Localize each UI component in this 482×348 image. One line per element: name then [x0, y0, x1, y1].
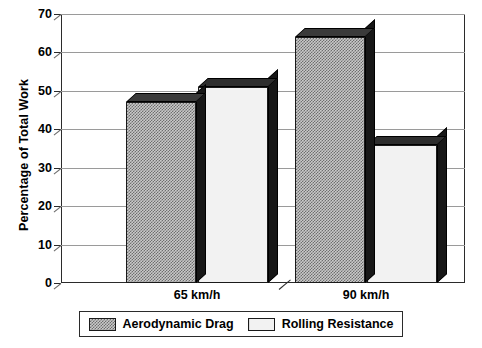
bar-front-face [295, 37, 365, 283]
plot-area: 010203040506070 [61, 14, 465, 283]
bar-chart-figure: Percentage of Total Work 010203040506070… [0, 0, 482, 348]
legend-label-rolling-resistance: Rolling Resistance [282, 317, 394, 331]
y-axis-tick-label: 20 [38, 199, 52, 213]
gridline [61, 52, 465, 53]
bar-90-km-h-aerodynamic-drag [295, 37, 365, 283]
bar-side-face [268, 69, 278, 283]
y-axis-tick-label: 40 [38, 122, 52, 136]
legend-item-aerodynamic-drag: Aerodynamic Drag [89, 317, 234, 331]
bar-top-face [198, 78, 278, 87]
y-axis-title: Percentage of Total Work [17, 35, 31, 275]
legend-item-rolling-resistance: Rolling Resistance [248, 317, 394, 331]
axis-break-tick [279, 283, 293, 294]
legend-label-aerodynamic-drag: Aerodynamic Drag [123, 317, 234, 331]
bar-front-face [126, 102, 196, 283]
bar-side-face [196, 84, 206, 283]
y-axis-depth-tick [54, 283, 62, 289]
y-axis-tick-label: 50 [38, 84, 52, 98]
y-axis-tick-label: 70 [38, 7, 52, 21]
bar-65-km-h-aerodynamic-drag [126, 102, 196, 283]
checkerboard-swatch-icon [89, 318, 116, 331]
x-axis-tick-label: 65 km/h [174, 288, 221, 302]
bar-top-face [367, 136, 447, 145]
y-axis-tick-label: 60 [38, 45, 52, 59]
bar-side-face [437, 127, 447, 283]
bar-65-km-h-rolling-resistance [198, 87, 268, 283]
bar-front-face [367, 145, 437, 283]
y-axis-tick-label: 10 [38, 238, 52, 252]
light-swatch-icon [248, 318, 275, 331]
x-axis-tick-label: 90 km/h [343, 288, 390, 302]
bar-front-face [198, 87, 268, 283]
bar-top-face [295, 28, 375, 37]
chart-legend: Aerodynamic Drag Rolling Resistance [79, 311, 403, 337]
y-axis-tick-label: 30 [38, 161, 52, 175]
bar-top-face [126, 93, 206, 102]
bar-side-face [365, 19, 375, 283]
bar-90-km-h-rolling-resistance [367, 145, 437, 283]
y-axis-tick-label: 0 [45, 276, 52, 290]
gridline [61, 14, 465, 15]
